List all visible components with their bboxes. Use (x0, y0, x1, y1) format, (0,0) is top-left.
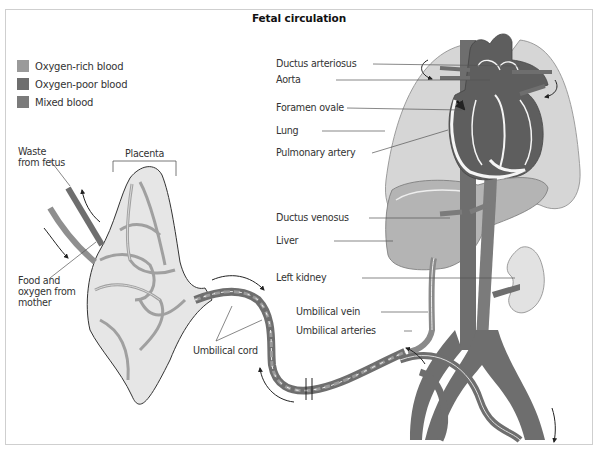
label-umbilical-vein: Umbilical vein (296, 306, 360, 317)
label-ductus-arteriosus: Ductus arteriosus (276, 58, 356, 69)
label-left-kidney: Left kidney (276, 272, 326, 283)
placenta (87, 167, 212, 405)
legend-item-mixed: Mixed blood (17, 93, 127, 111)
label-food-and-oxygen: Food and oxygen from mother (18, 275, 80, 308)
maternal-vessels (50, 188, 102, 262)
arrow-cord-top (212, 276, 264, 290)
legend-item-oxygen-rich: Oxygen-rich blood (17, 57, 127, 75)
swatch-mixed (17, 96, 29, 108)
arrow-downward-flow (552, 408, 555, 442)
legend-label: Oxygen-poor blood (35, 79, 127, 90)
label-umbilical-arteries: Umbilical arteries (296, 325, 376, 336)
figure-title: Fetal circulation (0, 12, 598, 24)
label-aorta: Aorta (276, 74, 301, 85)
label-ductus-venosus: Ductus venosus (276, 212, 349, 223)
label-lung: Lung (276, 125, 298, 136)
label-foramen-ovale: Foramen ovale (276, 102, 344, 113)
swatch-oxygen-poor (17, 78, 29, 90)
label-placenta: Placenta (125, 148, 164, 159)
legend-label: Mixed blood (35, 97, 93, 108)
label-liver: Liver (276, 235, 298, 246)
legend-item-oxygen-poor: Oxygen-poor blood (17, 75, 127, 93)
legend: Oxygen-rich blood Oxygen-poor blood Mixe… (17, 57, 127, 111)
swatch-oxygen-rich (17, 60, 29, 72)
label-pulmonary-artery: Pulmonary artery (276, 147, 355, 158)
label-waste-from-fetus: Waste from fetus (18, 146, 70, 168)
left-kidney (507, 247, 544, 313)
legend-label: Oxygen-rich blood (35, 61, 123, 72)
label-umbilical-cord: Umbilical cord (193, 345, 258, 356)
